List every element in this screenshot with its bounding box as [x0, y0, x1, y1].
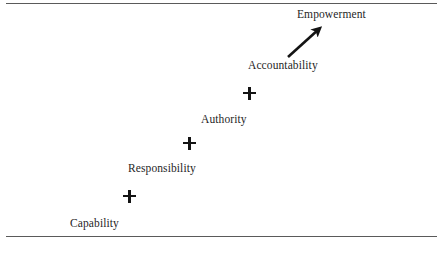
- stage-label-responsibility: Responsibility: [128, 163, 196, 175]
- bottom-rule: [6, 236, 437, 237]
- plus-marker-responsibility: [183, 137, 196, 150]
- diagram-canvas: Capability Responsibility Authority Acco…: [0, 0, 443, 254]
- top-rule: [6, 3, 437, 4]
- plus-marker-authority: [243, 87, 256, 100]
- plus-marker-capability: [123, 190, 136, 203]
- up-right-arrow: [288, 29, 319, 57]
- stage-label-authority: Authority: [201, 114, 247, 126]
- stage-label-empowerment: Empowerment: [297, 9, 366, 21]
- arrow-layer: [0, 0, 443, 254]
- stage-label-capability: Capability: [70, 218, 119, 230]
- stage-label-accountability: Accountability: [248, 60, 318, 72]
